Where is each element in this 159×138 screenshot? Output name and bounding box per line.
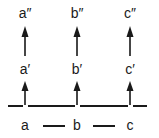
baseline-segment-left	[8, 105, 23, 107]
up-arrow-icon	[73, 81, 82, 105]
up-arrow-icon	[21, 26, 30, 56]
label-a-prime: a′	[20, 62, 30, 76]
baseline-segment-right	[133, 105, 147, 107]
label-c-prime: c′	[125, 62, 135, 76]
label-a: a	[21, 118, 29, 132]
arrow-diagram: a″ b″ c″ a′ b′ c′	[0, 0, 159, 138]
connector-dash-b-c	[93, 125, 115, 127]
label-b-prime: b′	[72, 62, 82, 76]
arrow-up-a-prime-to-a-double-prime	[21, 26, 30, 60]
arrow-up-c-prime-to-c-double-prime	[126, 26, 135, 60]
up-arrow-icon	[73, 26, 82, 56]
label-c-double-prime: c″	[124, 6, 136, 20]
label-c: c	[127, 118, 134, 132]
arrow-up-b-prime-to-b-double-prime	[73, 26, 82, 60]
label-b: b	[73, 118, 81, 132]
baseline-segment-b-c	[80, 105, 128, 107]
up-arrow-icon	[21, 81, 30, 105]
up-arrow-icon	[126, 81, 135, 105]
up-arrow-icon	[126, 26, 135, 56]
label-a-double-prime: a″	[19, 6, 32, 20]
connector-dash-a-b	[43, 125, 65, 127]
label-b-double-prime: b″	[71, 6, 84, 20]
baseline-segment-a-b	[28, 105, 75, 107]
